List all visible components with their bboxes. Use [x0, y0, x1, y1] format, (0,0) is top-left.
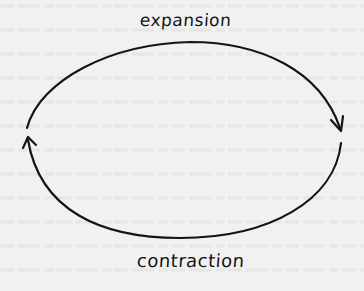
- contraction-arc: [28, 140, 341, 238]
- expansion-arc: [27, 42, 340, 128]
- expansion-label: expansion: [139, 10, 232, 30]
- cycle-diagram: [0, 0, 364, 291]
- contraction-label: contraction: [136, 250, 245, 271]
